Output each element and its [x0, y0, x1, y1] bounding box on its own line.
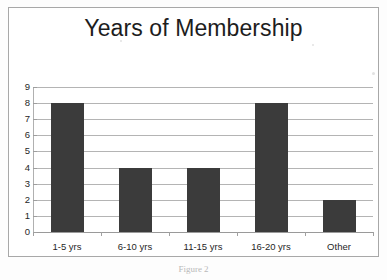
x-axis-tick — [33, 232, 34, 236]
scan-artifact — [372, 72, 375, 75]
scan-artifact — [120, 40, 122, 42]
gridline — [33, 87, 373, 88]
y-axis-tick — [33, 168, 37, 169]
bar — [119, 168, 152, 232]
y-axis-tick-labels: 0123456789 — [6, 0, 30, 280]
chart-title: Years of Membership — [9, 14, 378, 42]
y-axis-label: 4 — [8, 163, 30, 173]
bar — [323, 200, 356, 232]
y-axis-label: 5 — [8, 146, 30, 156]
figure-caption: Figure 2 — [0, 264, 387, 275]
x-axis-label: 6-10 yrs — [101, 241, 169, 253]
y-axis-label: 6 — [8, 130, 30, 140]
y-axis-tick — [33, 151, 37, 152]
y-axis-tick — [33, 135, 37, 136]
bar — [255, 103, 288, 232]
x-axis-label: 16-20 yrs — [237, 241, 305, 253]
x-axis-tick — [101, 232, 102, 236]
y-axis-label: 1 — [8, 211, 30, 221]
y-axis-label: 2 — [8, 195, 30, 205]
y-axis-tick — [33, 103, 37, 104]
x-axis-tick — [237, 232, 238, 236]
x-axis-label: Other — [305, 241, 373, 253]
gridline — [33, 151, 373, 152]
figure-container: Years of Membership 0123456789 Figure 2 … — [0, 0, 387, 280]
y-axis-tick — [33, 216, 37, 217]
x-axis-label: 11-15 yrs — [169, 241, 237, 253]
x-axis-tick — [373, 232, 374, 236]
bar — [187, 168, 220, 232]
gridline — [33, 232, 373, 233]
bar — [51, 103, 84, 232]
y-axis-tick — [33, 87, 37, 88]
y-axis-label: 3 — [8, 179, 30, 189]
x-axis-label: 1-5 yrs — [33, 241, 101, 253]
y-axis-label: 7 — [8, 114, 30, 124]
y-axis-label: 9 — [8, 82, 30, 92]
scan-artifact — [312, 44, 314, 46]
y-axis-tick — [33, 184, 37, 185]
gridline — [33, 103, 373, 104]
y-axis-tick — [33, 119, 37, 120]
gridline — [33, 135, 373, 136]
plot-area — [33, 87, 373, 232]
y-axis-label: 8 — [8, 98, 30, 108]
y-axis-tick — [33, 200, 37, 201]
x-axis-tick — [169, 232, 170, 236]
y-axis-label: 0 — [8, 227, 30, 237]
gridline — [33, 119, 373, 120]
x-axis-tick — [305, 232, 306, 236]
